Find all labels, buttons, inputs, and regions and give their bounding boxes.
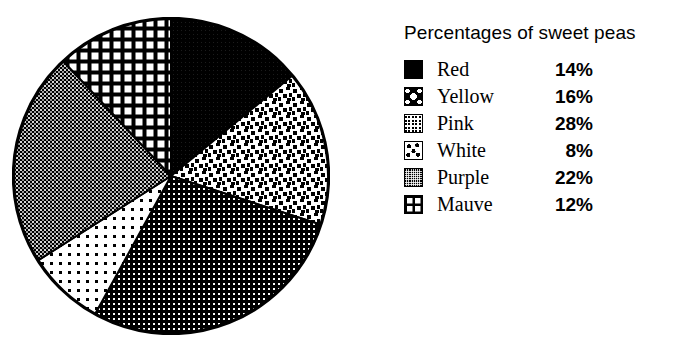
legend-swatch-purple bbox=[404, 168, 423, 187]
legend-swatch-red bbox=[404, 60, 423, 79]
legend-item-white: White 8% bbox=[404, 138, 688, 163]
pie-chart-figure: Percentages of sweet peas Red 14% Yellow… bbox=[0, 0, 692, 342]
legend-item-purple: Purple 22% bbox=[404, 165, 688, 190]
legend-label-yellow: Yellow bbox=[437, 85, 541, 108]
legend-swatch-white bbox=[404, 141, 423, 160]
legend-label-purple: Purple bbox=[437, 166, 541, 189]
legend-title: Percentages of sweet peas bbox=[404, 22, 688, 44]
pie-slices-final bbox=[14, 19, 328, 333]
pie-chart bbox=[12, 17, 330, 335]
legend-item-mauve: Mauve 12% bbox=[404, 192, 688, 217]
legend-value-pink: 28% bbox=[541, 113, 593, 135]
legend-item-yellow: Yellow 16% bbox=[404, 84, 688, 109]
legend-label-mauve: Mauve bbox=[437, 193, 541, 216]
legend-value-yellow: 16% bbox=[541, 86, 593, 108]
legend-label-red: Red bbox=[437, 58, 541, 81]
legend-item-pink: Pink 28% bbox=[404, 111, 688, 136]
legend-swatch-yellow bbox=[404, 87, 423, 106]
legend-swatch-pink bbox=[404, 114, 423, 133]
pie-chart-svg bbox=[12, 17, 330, 335]
legend-label-pink: Pink bbox=[437, 112, 541, 135]
legend: Percentages of sweet peas Red 14% Yellow… bbox=[404, 22, 688, 219]
legend-item-red: Red 14% bbox=[404, 57, 688, 82]
legend-swatch-mauve bbox=[404, 195, 423, 214]
legend-value-red: 14% bbox=[541, 59, 593, 81]
legend-value-mauve: 12% bbox=[541, 194, 593, 216]
legend-value-white: 8% bbox=[541, 140, 593, 162]
legend-value-purple: 22% bbox=[541, 167, 593, 189]
legend-label-white: White bbox=[437, 139, 541, 162]
